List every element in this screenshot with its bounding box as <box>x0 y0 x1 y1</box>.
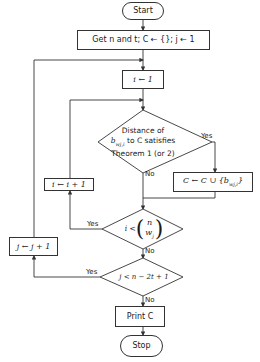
increment-i-process: i ← i + 1 <box>44 178 94 191</box>
add-to-c-label: C ← C ∪ {bwj,i} <box>183 176 243 189</box>
start-label: Start <box>133 6 153 16</box>
init-label: Get n and t; C ← {}; j ← 1 <box>92 35 194 45</box>
i-yes-label: Yes <box>87 220 98 228</box>
distance-no-label: No <box>145 170 155 178</box>
i-binomial-decision: i < ( nwj ) <box>118 214 170 244</box>
increment-j-process: j ← j + 1 <box>9 237 58 256</box>
increment-j-label: j ← j + 1 <box>17 242 51 252</box>
distance-line3: Theorem 1 (or 2) <box>108 149 178 159</box>
j-condition-label: j < n − 2t + 1 <box>119 272 168 282</box>
increment-i-label: i ← i + 1 <box>52 180 86 190</box>
distance-decision: Distance of bwj,i to C satisfies Theorem… <box>108 126 178 159</box>
stop-terminal: Stop <box>120 335 163 357</box>
binomial: ( nwj ) <box>136 218 164 241</box>
print-c-label: Print C <box>127 312 154 322</box>
i-no-label: No <box>145 247 155 255</box>
j-no-label: No <box>145 296 155 304</box>
j-decision: j < n − 2t + 1 <box>108 271 180 283</box>
i-lt-label: i < <box>125 224 136 234</box>
print-c-process: Print C <box>115 306 165 327</box>
distance-line2: bwj,i to C satisfies <box>108 136 178 149</box>
start-terminal: Start <box>122 2 164 20</box>
distance-line1: Distance of <box>108 126 178 136</box>
set-i-process: i ← 1 <box>122 70 164 89</box>
init-process: Get n and t; C ← {}; j ← 1 <box>77 30 210 50</box>
distance-yes-label: Yes <box>201 132 212 140</box>
add-to-c-process: C ← C ∪ {bwj,i} <box>173 172 253 192</box>
j-yes-label: Yes <box>86 268 97 276</box>
stop-label: Stop <box>132 341 150 351</box>
set-i-label: i ← 1 <box>133 75 152 85</box>
